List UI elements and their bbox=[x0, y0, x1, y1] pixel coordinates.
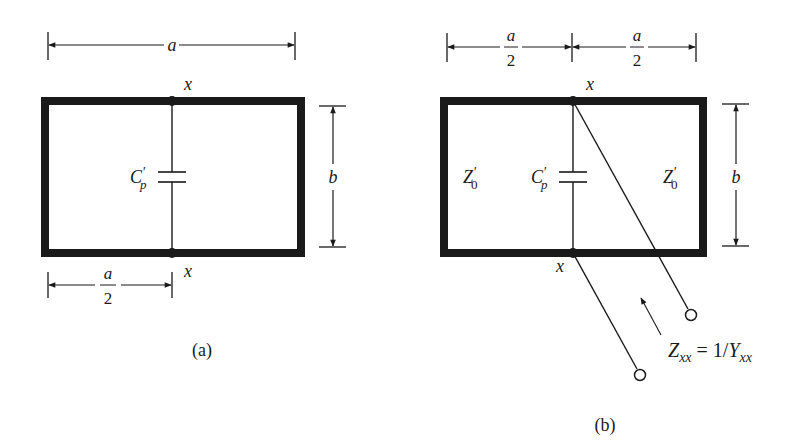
capacitor-label-b: C′p bbox=[531, 165, 548, 192]
port-impedance-equation: Zxx=1/Yxx bbox=[668, 339, 753, 365]
node-bottom-label: x bbox=[183, 261, 192, 281]
port-terminal-bottom bbox=[635, 370, 646, 381]
port-terminal-top bbox=[686, 310, 697, 321]
height-label: b bbox=[329, 167, 338, 187]
waveguide-iris-diagram: a C′p x x b a bbox=[0, 0, 809, 447]
node-top-label-b: x bbox=[585, 74, 594, 94]
width-label: a bbox=[168, 35, 177, 55]
node-top bbox=[167, 96, 177, 106]
svg-text:2: 2 bbox=[633, 51, 642, 70]
right-impedance-label: Z′0 bbox=[663, 165, 678, 192]
svg-text:a: a bbox=[633, 26, 642, 45]
width-dimension-a: a bbox=[48, 32, 295, 60]
svg-text:2: 2 bbox=[507, 51, 516, 70]
svg-text:a: a bbox=[104, 264, 113, 283]
caption-b: (b) bbox=[595, 415, 616, 436]
height-dimension-b: b bbox=[722, 104, 749, 246]
left-impedance-label: Z′0 bbox=[463, 165, 478, 192]
node-bottom-label-b: x bbox=[555, 256, 564, 276]
height-label-b: b bbox=[732, 167, 741, 187]
waveguide-wall bbox=[45, 101, 301, 253]
node-top-label: x bbox=[183, 74, 192, 94]
shunt-capacitor bbox=[158, 96, 186, 258]
half-width-dimensions-b: a 2 a 2 bbox=[447, 26, 696, 70]
height-dimension-a: b bbox=[319, 106, 346, 247]
shunt-capacitor-b bbox=[559, 96, 587, 258]
svg-text:a: a bbox=[507, 26, 516, 45]
impedance-direction-arrow bbox=[641, 298, 661, 335]
capacitor-label: C′p bbox=[130, 165, 147, 192]
caption-a: (a) bbox=[192, 340, 212, 361]
half-width-dimension-a: a 2 bbox=[48, 264, 172, 308]
panel-a: a C′p x x b a bbox=[45, 32, 346, 361]
node-bottom bbox=[167, 248, 177, 258]
svg-text:2: 2 bbox=[104, 289, 113, 308]
panel-b: a 2 a 2 C′p Z′0 Z′0 x x bbox=[444, 26, 753, 436]
